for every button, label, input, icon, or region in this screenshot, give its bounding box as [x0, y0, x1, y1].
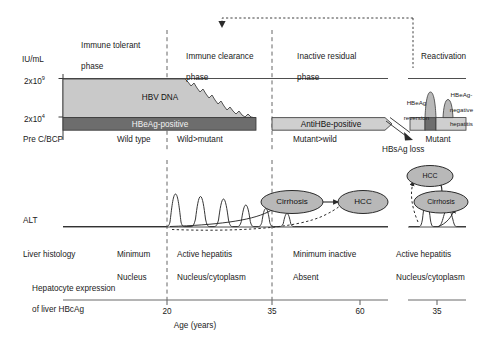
phase-inactive-residual: Inactive residual phase [288, 41, 356, 94]
hbeag-reversion-annotation: HBeAg reversion [395, 92, 431, 128]
variant-wild-mutant: Wild>mutant [177, 135, 223, 146]
row-liver-histology-cell-0: Minimum [117, 250, 150, 261]
figure-canvas: Immune tolerant phase Immune clearance p… [0, 0, 479, 339]
y-tick-upper: 2x109 [24, 73, 45, 87]
hbeag-negative-hepatitis-line1: HBeAg- [451, 91, 473, 98]
y-tick-lower-exponent: 4 [42, 113, 45, 119]
cirrhosis-main-label: Cirrhosis [262, 197, 322, 206]
phase-immune-tolerant-line2: phase [81, 62, 103, 71]
phase-inactive-residual-line1: Inactive residual [297, 52, 356, 61]
hbeag-negative-hepatitis-line3: hepatitis [450, 120, 473, 127]
row-liver-histology-header: Liver histology [23, 250, 75, 261]
row-hepatocyte-expression-header-line1: Hepatocyte expression [32, 284, 115, 293]
row-hepatocyte-expression-cell-2: Absent [293, 273, 319, 284]
x-tick-35: 35 [257, 307, 287, 318]
row-hepatocyte-expression-cell-0: Nucleus [117, 273, 147, 284]
phase-immune-clearance-line2: phase [186, 73, 208, 82]
hbeag-negative-hepatitis-annotation: HBeAg- negative hepatitis [437, 84, 479, 134]
phase-reactivation: Reactivation [412, 41, 466, 73]
hcc-main-label: HCC [338, 197, 388, 206]
alt-label: ALT [23, 216, 37, 227]
cirrhosis-reactivation-label: Cirrhosis [415, 198, 467, 205]
variant-wild-type: Wild type [117, 135, 151, 146]
row-liver-histology-cell-3: Active hepatitis [396, 250, 451, 261]
hbsag-loss-label: HBsAg loss [382, 145, 424, 156]
hbeag-negative-hepatitis-line2: negative [450, 106, 473, 113]
x-tick-20: 20 [152, 307, 182, 318]
hbeag-reversion-line2: reversion [404, 114, 429, 121]
y-axis [59, 74, 64, 140]
y-tick-lower: 2x104 [24, 111, 45, 125]
row-hepatocyte-expression-header-line2: of liver HBcAg [32, 305, 84, 314]
phase-immune-clearance: Immune clearance phase [177, 41, 253, 94]
y-tick-lower-mantissa: 2x10 [24, 115, 42, 124]
row-hepatocyte-expression-cell-1: Nucleus/cytoplasm [177, 273, 246, 284]
variant-mutant-wild: Mutant>wild [293, 135, 337, 146]
row-liver-histology-cell-2: Minimum inactive [293, 250, 356, 261]
row-hepatocyte-expression-cell-3: Nucleus/cytoplasm [396, 273, 465, 284]
variant-mutant: Mutant [414, 135, 462, 146]
phase-immune-tolerant-line1: Immune tolerant [81, 41, 140, 50]
phase-immune-tolerant: Immune tolerant phase [72, 30, 140, 83]
x-tick-inset-35: 35 [422, 307, 452, 318]
y-axis-unit: IU/mL [22, 55, 44, 66]
x-axis [63, 300, 466, 305]
x-tick-60: 60 [345, 307, 375, 318]
row-liver-histology-cell-1: Active hepatitis [177, 250, 232, 261]
hbv-dna-label: HBV DNA [100, 93, 220, 102]
hcc-reactivation-label: HCC [407, 172, 453, 179]
x-axis-label: Age (years) [150, 321, 240, 332]
variant-precbcp: Pre C/BCP [23, 135, 63, 146]
y-tick-upper-mantissa: 2x10 [24, 77, 42, 86]
phase-immune-clearance-line1: Immune clearance [186, 52, 253, 61]
hbeag-positive-label: HBeAg-positive [100, 120, 220, 129]
y-tick-upper-exponent: 9 [42, 75, 45, 81]
phase-reactivation-line1: Reactivation [421, 52, 466, 61]
antihbe-positive-label: AntiHBe-positive [275, 120, 387, 129]
hbeag-reversion-line1: HBeAg [407, 99, 427, 106]
row-hepatocyte-expression-header: Hepatocyte expression of liver HBcAg [23, 273, 115, 326]
phase-inactive-residual-line2: phase [297, 73, 319, 82]
